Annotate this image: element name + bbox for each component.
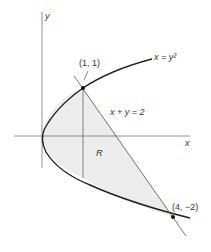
line-label: x + y = 2 bbox=[110, 107, 145, 117]
label-pointer bbox=[84, 71, 88, 80]
curve-label: x = y² bbox=[154, 52, 176, 62]
point-bottom-label: (4, −2) bbox=[172, 202, 198, 212]
point-top-label: (1, 1) bbox=[79, 58, 100, 68]
region-diagram: y x x = y² x + y = 2 R (1, 1) (4, −2) bbox=[0, 0, 211, 252]
point-1-1 bbox=[81, 86, 85, 90]
x-axis-label: x bbox=[185, 138, 190, 148]
diagram-graphics bbox=[0, 0, 211, 252]
y-axis-label: y bbox=[45, 11, 50, 21]
region-label: R bbox=[96, 148, 103, 158]
point-4-neg2 bbox=[171, 215, 175, 219]
